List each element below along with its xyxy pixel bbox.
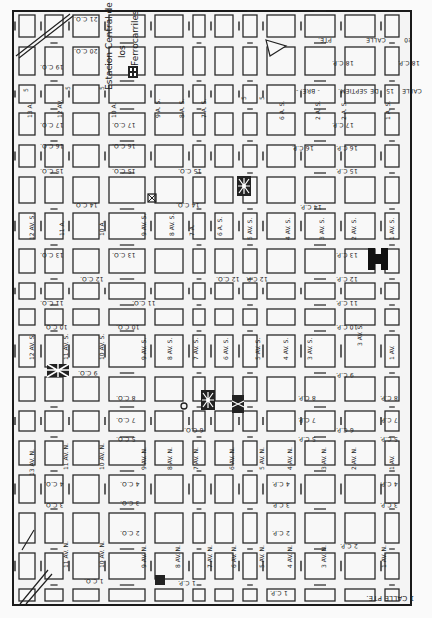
avenida-label: 5	[22, 88, 29, 92]
avenida-label: 10 A.	[110, 103, 117, 118]
calle-label: 18 C.P.	[332, 60, 354, 67]
city-block	[45, 283, 63, 299]
avenida-label: 7 A.	[188, 224, 195, 236]
calle-label: 5 C.O.	[116, 436, 135, 443]
small-black-square-icon	[155, 575, 165, 585]
avenida-label: 2 AV. N.	[350, 447, 357, 470]
calle-label: 7 C.O.	[116, 417, 135, 424]
calle-label: 7 C.P.	[298, 417, 316, 424]
avenida-label: 13 AV. N.	[28, 449, 35, 476]
city-block	[19, 249, 35, 273]
avenida-label: 6 A. S.	[216, 217, 223, 236]
avenida-label: 6 AV. N.	[230, 545, 237, 568]
city-block	[73, 441, 99, 465]
city-block	[193, 589, 205, 601]
avenida-label: 11 A.	[58, 221, 65, 236]
avenida-label: 11 AV. N.	[62, 541, 69, 568]
avenida-label: 2 A. S.	[340, 101, 347, 120]
city-block	[345, 177, 375, 203]
top-street-label: SEPTIEM.	[338, 88, 367, 95]
calle-label: 13 C.O.	[40, 252, 63, 259]
calle-label: 1 C.O.	[84, 578, 103, 585]
avenida-label: 5 AV. S.	[246, 218, 253, 240]
city-block	[45, 309, 63, 325]
city-block	[267, 15, 295, 37]
avenida-label: 12 AV.	[56, 99, 63, 118]
city-block	[267, 475, 295, 503]
city-block	[73, 377, 99, 401]
calle-label: 12 C.O.	[216, 276, 239, 283]
city-block	[155, 589, 183, 601]
city-block	[305, 309, 335, 325]
city-block	[109, 85, 145, 103]
calle-label: 10 C.O.	[44, 324, 67, 331]
avenida-label: 10 A.	[98, 221, 105, 236]
calle-label: 4 C.P.	[272, 481, 290, 488]
city-block	[155, 177, 183, 203]
city-block	[215, 309, 233, 325]
city-block	[243, 589, 257, 601]
calle-label: 13 C.P.	[336, 252, 358, 259]
avenida-label: 8 AV. N.	[174, 545, 181, 568]
city-block	[73, 589, 99, 601]
city-block	[215, 113, 233, 135]
top-street-label: - BRE. -	[296, 88, 320, 95]
calle-label: 8 C.P.	[380, 395, 398, 402]
calle-label: 13 C.O.	[112, 252, 135, 259]
city-block	[193, 553, 205, 579]
calle-label: 11 C.O.	[40, 300, 63, 307]
calle-label: 17 C.O.	[112, 122, 135, 129]
calle-label: 8 C.O.	[116, 395, 135, 402]
avenida-label: 4 AV. N.	[286, 447, 293, 470]
city-block	[45, 411, 63, 431]
city-block	[155, 377, 183, 401]
city-block	[19, 177, 35, 203]
city-block	[215, 85, 233, 103]
avenida-label: 10 AV. S.	[98, 334, 105, 360]
avenida-label: 3 AV. N.	[320, 545, 327, 568]
city-block	[385, 513, 399, 543]
city-block	[73, 145, 99, 167]
flag-cross-symbol-icon	[47, 364, 69, 377]
city-block	[73, 213, 99, 239]
city-block	[243, 377, 257, 401]
avenida-label: 7 A. S.	[200, 99, 207, 118]
city-block	[243, 475, 257, 503]
calle-label: 3 C.P.	[272, 502, 290, 509]
calle-label: 10 C.O.	[116, 324, 139, 331]
city-block	[155, 513, 183, 543]
city-block	[243, 513, 257, 543]
avenida-label: 6 AV. N.	[228, 447, 235, 470]
city-block	[109, 309, 145, 325]
city-block	[305, 249, 335, 273]
calle-label: 17 C.O.	[40, 122, 63, 129]
city-block	[109, 513, 145, 543]
city-block	[155, 283, 183, 299]
city-block	[45, 589, 63, 601]
avenida-label: 3 AV. S.	[318, 218, 325, 240]
city-block	[193, 249, 205, 273]
calle-label: 14 C.P.	[300, 204, 322, 211]
calle-label: 11 C.P.	[336, 300, 358, 307]
calle-label: 11 C.O.	[132, 300, 155, 307]
avenida-label: 8 AV. N.	[166, 447, 173, 470]
city-block	[193, 177, 205, 203]
calle-label: 1 C.P.	[178, 580, 196, 587]
city-block	[155, 145, 183, 167]
city-block	[19, 145, 35, 167]
city-block	[243, 283, 257, 299]
avenida-label: 1 A. S.	[384, 101, 391, 120]
avenida-label: 4 AV. N.	[286, 545, 293, 568]
calle-label: 2 C.O.	[120, 530, 139, 537]
avenida-label: 5	[258, 96, 265, 100]
calle-label: 3 C.P.	[380, 502, 398, 509]
avenida-label: 4 AV. S.	[284, 218, 291, 240]
calle-label: 16 C.O.	[40, 143, 63, 150]
city-block	[385, 47, 399, 75]
avenida-label: 1 AV.	[388, 345, 395, 360]
avenida-label: 9 AV. N.	[140, 447, 147, 470]
city-block	[73, 309, 99, 325]
city-block	[305, 513, 335, 543]
city-block	[267, 249, 295, 273]
calle-label: 17 C.P.	[332, 122, 354, 129]
